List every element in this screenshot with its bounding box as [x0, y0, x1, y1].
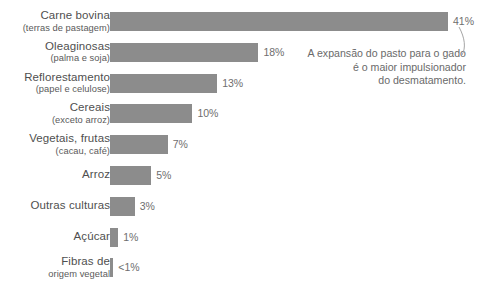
- bar: [110, 104, 192, 123]
- bar-category-label-sub: (exceto arroz): [0, 114, 110, 127]
- annotation-line-2: é o maior impulsionador: [288, 61, 466, 75]
- bar-category-label-sub: (papel e celulose): [0, 83, 110, 96]
- bar-category-label-main: Açúcar: [0, 230, 110, 243]
- annotation-line-1: A expansão do pasto para o gado: [288, 47, 466, 61]
- chart-bar-row: Açúcar1%: [0, 228, 487, 247]
- bar-category-label-sub: (palma e soja): [0, 52, 110, 65]
- bar-category-label-main: Oleaginosas: [0, 40, 110, 53]
- bar-category-label-main: Fibras de: [0, 255, 110, 268]
- bar: [110, 228, 118, 247]
- bar-category-label: Reflorestamento(papel e celulose): [0, 71, 110, 96]
- chart-bar-row: Fibras deorigem vegetal<1%: [0, 258, 487, 277]
- bar-category-label: Fibras deorigem vegetal: [0, 255, 110, 280]
- bar-category-label-main: Cereais: [0, 101, 110, 114]
- bar: [110, 43, 258, 62]
- bar-category-label: Outras culturas: [0, 199, 110, 212]
- bar-category-label-main: Arroz: [0, 168, 110, 181]
- bar: [110, 197, 135, 216]
- bar-value-label: 3%: [140, 200, 155, 213]
- bar-category-label: Arroz: [0, 168, 110, 181]
- bar-value-label: 10%: [197, 107, 218, 120]
- bar: [110, 74, 217, 93]
- bar-category-label: Vegetais, frutas(cacau, café): [0, 132, 110, 157]
- deforestation-drivers-bar-chart: Carne bovina(terras de pastagem)41%Oleag…: [0, 0, 487, 284]
- bar-value-label: 13%: [222, 77, 243, 90]
- chart-bar-row: Arroz5%: [0, 166, 487, 185]
- chart-bar-row: Outras culturas3%: [0, 197, 487, 216]
- bar-category-label-main: Reflorestamento: [0, 71, 110, 84]
- chart-bar-row: Carne bovina(terras de pastagem)41%: [0, 12, 487, 31]
- bar-value-label: 7%: [173, 138, 188, 151]
- annotation-line-3: do desmatamento.: [288, 74, 466, 88]
- bar-value-label: 41%: [453, 15, 474, 28]
- bar: [110, 12, 448, 31]
- bar-category-label: Cereais(exceto arroz): [0, 101, 110, 126]
- bar-category-label-sub: (cacau, café): [0, 145, 110, 158]
- bar-category-label-main: Carne bovina: [0, 9, 110, 22]
- chart-bar-row: Cereais(exceto arroz)10%: [0, 104, 487, 123]
- chart-bar-row: Vegetais, frutas(cacau, café)7%: [0, 135, 487, 154]
- bar-category-label-sub: (terras de pastagem): [0, 22, 110, 35]
- bar: [110, 258, 113, 277]
- bar-category-label-main: Vegetais, frutas: [0, 132, 110, 145]
- bar-category-label-sub: origem vegetal: [0, 268, 110, 281]
- bar-category-label: Oleaginosas(palma e soja): [0, 40, 110, 65]
- bar: [110, 135, 168, 154]
- bar-value-label: 5%: [156, 169, 171, 182]
- bar-category-label: Carne bovina(terras de pastagem): [0, 9, 110, 34]
- bar: [110, 166, 151, 185]
- bar-category-label: Açúcar: [0, 230, 110, 243]
- bar-category-label-main: Outras culturas: [0, 199, 110, 212]
- chart-annotation: A expansão do pasto para o gado é o maio…: [288, 47, 466, 88]
- bar-value-label: 18%: [263, 46, 284, 59]
- bar-value-label: <1%: [118, 261, 139, 274]
- bar-value-label: 1%: [123, 231, 138, 244]
